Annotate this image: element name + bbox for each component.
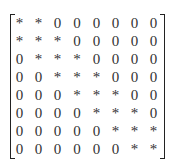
matrix-entry: * [125, 140, 144, 158]
matrix-entry: 0 [144, 68, 163, 86]
matrix-entry: * [106, 86, 125, 104]
matrix-entry: 0 [68, 122, 87, 140]
matrix-row: 00000*** [10, 122, 165, 140]
matrix-entry: * [68, 68, 87, 86]
matrix-entry: 0 [68, 104, 87, 122]
matrix-entry: * [29, 50, 48, 68]
matrix-entry: 0 [87, 14, 106, 32]
matrix-entry: 0 [10, 122, 29, 140]
matrix-entry: * [29, 14, 48, 32]
matrix-entry: 0 [144, 32, 163, 50]
matrix-entry: * [106, 104, 125, 122]
matrix-entry: 0 [48, 86, 67, 104]
matrix-entry: * [87, 104, 106, 122]
matrix-entry: 0 [29, 104, 48, 122]
matrix-row: 000000** [10, 140, 165, 158]
matrix-entry: * [10, 14, 29, 32]
matrix-entry: 0 [106, 68, 125, 86]
matrix-entry: 0 [87, 32, 106, 50]
matrix-entry: 0 [48, 140, 67, 158]
matrix-entry: 0 [106, 140, 125, 158]
matrix-entry: 0 [87, 50, 106, 68]
matrix-entry: 0 [125, 86, 144, 104]
matrix-entry: * [125, 104, 144, 122]
matrix-entry: 0 [29, 86, 48, 104]
matrix-row: 000***00 [10, 86, 165, 104]
matrix-entry: 0 [125, 32, 144, 50]
matrix-entry: 0 [48, 14, 67, 32]
tridiagonal-matrix: **000000***000000***000000***000000***00… [10, 14, 165, 159]
matrix-entry: 0 [106, 14, 125, 32]
matrix-entry: * [87, 86, 106, 104]
matrix-entry: 0 [106, 32, 125, 50]
matrix-entry: * [68, 86, 87, 104]
matrix-entry: 0 [10, 104, 29, 122]
matrix-entry: * [48, 32, 67, 50]
matrix-entry: 0 [29, 140, 48, 158]
matrix-entry: 0 [106, 50, 125, 68]
matrix-entry: * [48, 68, 67, 86]
matrix-grid: **000000***000000***000000***000000***00… [10, 14, 165, 159]
matrix-entry: * [10, 32, 29, 50]
matrix-entry: 0 [29, 122, 48, 140]
matrix-entry: 0 [125, 14, 144, 32]
matrix-entry: 0 [29, 68, 48, 86]
matrix-entry: 0 [125, 68, 144, 86]
matrix-entry: 0 [10, 140, 29, 158]
matrix-entry: 0 [10, 68, 29, 86]
matrix-entry: 0 [68, 14, 87, 32]
matrix-entry: 0 [87, 122, 106, 140]
matrix-entry: * [68, 50, 87, 68]
matrix-entry: 0 [125, 50, 144, 68]
matrix-entry: 0 [144, 50, 163, 68]
matrix-entry: 0 [48, 104, 67, 122]
matrix-row: 0000***0 [10, 104, 165, 122]
matrix-entry: * [48, 50, 67, 68]
matrix-row: 00***000 [10, 68, 165, 86]
matrix-entry: 0 [68, 32, 87, 50]
matrix-entry: * [29, 32, 48, 50]
matrix-entry: 0 [68, 140, 87, 158]
matrix-entry: 0 [10, 50, 29, 68]
matrix-entry: 0 [87, 140, 106, 158]
matrix-entry: 0 [48, 122, 67, 140]
matrix-entry: * [144, 122, 163, 140]
matrix-entry: 0 [144, 86, 163, 104]
matrix-row: ***00000 [10, 32, 165, 50]
matrix-entry: * [144, 140, 163, 158]
matrix-entry: * [87, 68, 106, 86]
matrix-row: 0***0000 [10, 50, 165, 68]
matrix-entry: * [125, 122, 144, 140]
matrix-entry: 0 [144, 14, 163, 32]
matrix-entry: 0 [10, 86, 29, 104]
matrix-entry: 0 [144, 104, 163, 122]
matrix-entry: * [106, 122, 125, 140]
matrix-row: **000000 [10, 14, 165, 32]
